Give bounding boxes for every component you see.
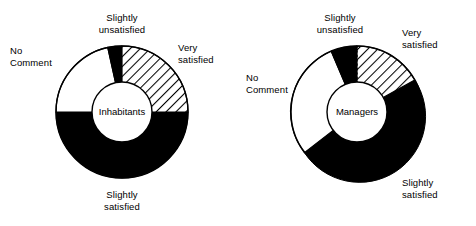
hub-label-inhabitants: Inhabitants	[72, 106, 172, 117]
hub-label-managers: Managers	[307, 106, 407, 117]
label-no-comment: No Comment	[10, 45, 72, 68]
label-no-comment: No Comment	[246, 72, 306, 95]
figure-canvas: Inhabitants Slightly unsatisfied Very sa…	[0, 0, 476, 226]
donut-chart-inhabitants: Inhabitants Slightly unsatisfied Very sa…	[0, 0, 238, 226]
label-very-satisfied: Very satisfied	[178, 42, 236, 65]
donut-chart-managers: Managers Slightly unsatisfied Very satis…	[238, 0, 476, 226]
label-slightly-satisfied: Slightly satisfied	[402, 177, 472, 200]
label-slightly-unsatisfied: Slightly unsatisfied	[290, 12, 390, 35]
label-very-satisfied: Very satisfied	[402, 27, 462, 50]
label-slightly-unsatisfied: Slightly unsatisfied	[72, 12, 172, 35]
label-slightly-satisfied: Slightly satisfied	[74, 189, 170, 212]
